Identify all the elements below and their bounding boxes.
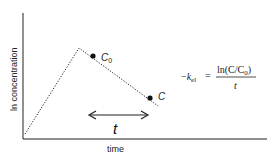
c-point [147, 95, 152, 100]
y-axis-label: ln concentration [9, 47, 19, 111]
concentration-curve [25, 48, 158, 134]
x-axis-label: time [107, 144, 124, 154]
formula-equals: = [205, 70, 211, 81]
c-label: C [158, 91, 166, 102]
c0-label: C0 [101, 52, 112, 64]
formula-denominator: t [234, 80, 237, 91]
interval-label: t [113, 120, 118, 137]
pk-diagram: C0 C t time ln concentration −kel = ln(C… [0, 0, 272, 158]
c0-point [90, 53, 95, 58]
formula-numerator: ln(C/C0) [217, 64, 251, 77]
formula-lhs: −kel [181, 71, 196, 84]
